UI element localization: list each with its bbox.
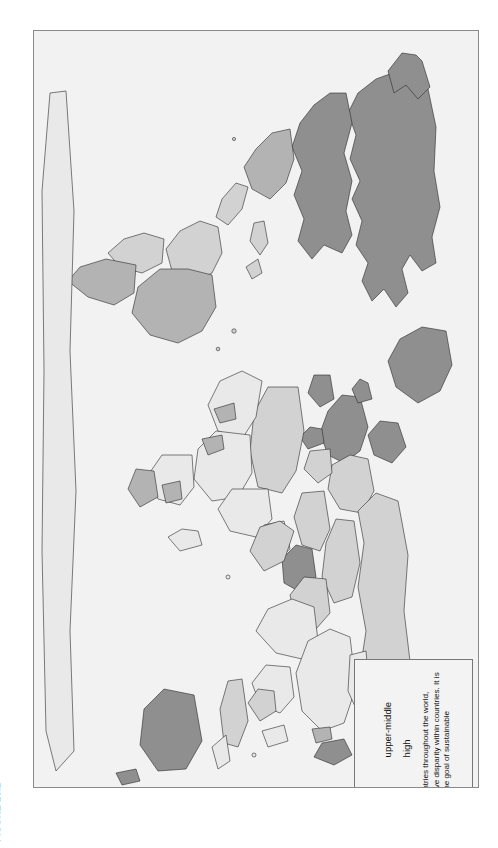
- region-antarctica: [42, 91, 76, 771]
- legend-title: GNP per Capita in U.S. Dollars: [362, 669, 374, 788]
- region-botswana: [162, 481, 182, 503]
- map-legend: GNP per Capita in U.S. Dollars low upper…: [354, 777, 470, 788]
- legend-label-upper-middle: upper-middle: [382, 669, 393, 757]
- legend-swatch-grid: low upper-middle lower-middle high: [380, 669, 414, 788]
- figure-plate: GNP per Capita in U.S. Dollars low upper…: [33, 30, 479, 788]
- legend-label-high: high: [401, 669, 412, 757]
- legend-box: GNP per Capita in U.S. Dollars low upper…: [354, 659, 473, 788]
- figure-label: FIGURE 13.1: [0, 722, 2, 842]
- legend-note: This map depicts relative income of peop…: [421, 669, 464, 788]
